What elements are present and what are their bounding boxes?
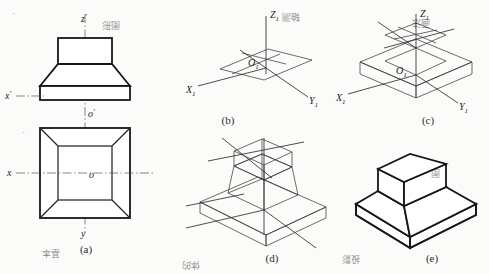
label-x-prime: x′	[4, 90, 11, 101]
caption-a: (a)	[66, 243, 106, 255]
label-y1: Y1	[459, 101, 468, 115]
label-x-axis: x	[6, 167, 12, 178]
front-view-frustum	[40, 64, 130, 86]
label-x1: X1	[335, 92, 346, 106]
caption-e: (e)	[412, 252, 452, 264]
label-o1: O1	[248, 57, 259, 71]
wire-slab-top-face	[200, 177, 326, 235]
wire-prism-top	[234, 139, 292, 165]
wire-slab-right-face	[266, 207, 326, 246]
caption-c: (c)	[408, 114, 448, 126]
svg-text:体的: 体的	[182, 260, 200, 271]
caption-b: (b)	[208, 114, 248, 126]
upper-square-plane	[385, 23, 446, 48]
axis-y1	[416, 75, 458, 103]
label-origin-o: o	[89, 169, 94, 180]
label-o-prime: o′	[88, 108, 95, 119]
axis-y1	[266, 68, 308, 97]
svg-text:投影: 投影	[342, 254, 360, 265]
wire-slab-left-face	[200, 202, 266, 246]
wire-frustum-lower-square	[228, 179, 298, 210]
front-view-base-slab	[40, 86, 130, 100]
label-y-axis: y	[80, 228, 86, 239]
wire-frustum-edge-right	[292, 167, 298, 195]
slab-front-left-face	[360, 62, 416, 98]
figure-canvas: z′ x′ o′ x y o	[0, 0, 489, 274]
label-y1: Y1	[309, 95, 318, 109]
slab-top-inner-square	[385, 48, 446, 75]
label-z1: Z1	[420, 8, 429, 22]
construction-line-horizontal	[384, 29, 454, 48]
panel-d	[186, 136, 346, 251]
wire-construction-horizontal	[208, 142, 304, 161]
svg-text:基本: 基本	[42, 248, 60, 259]
panel-b: Z1 X1 Y1 O1	[180, 4, 325, 119]
slab-front-right-face	[416, 62, 472, 98]
label-o1: O1	[396, 65, 407, 79]
caption-d: (d)	[252, 252, 292, 264]
label-x1: X1	[185, 84, 196, 98]
front-view-top-block	[58, 38, 112, 64]
wire-prism-bottom	[234, 154, 292, 180]
panel-c: Z1 X1 Y1 O1	[332, 4, 489, 119]
panel-a: z′ x′ o′ x y o	[0, 0, 180, 240]
label-z-prime: z′	[80, 13, 87, 24]
label-z1: Z1	[270, 9, 279, 23]
panel-e	[348, 140, 488, 250]
wire-frustum-upper-square	[234, 154, 292, 180]
